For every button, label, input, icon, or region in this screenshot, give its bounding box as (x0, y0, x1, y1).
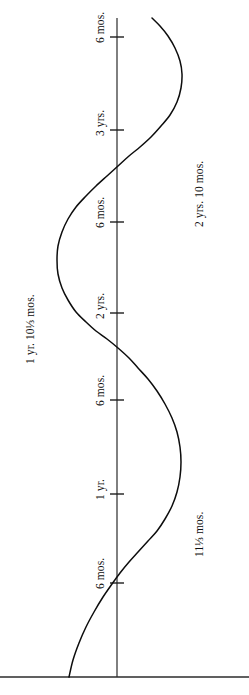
axis-tick-label-4: 6 mos. (94, 197, 106, 228)
extrema-annotation-1: 1 yr. 10⅓ mos. (24, 294, 36, 364)
axis-tick-label-0: 6 mos. (94, 558, 106, 589)
axis-tick-label-1: 1 yr. (94, 479, 106, 500)
axis-tick-label-2: 6 mos. (94, 375, 106, 406)
growth-curve-figure: 6 mos.1 yr.6 mos.2 yrs.6 mos.3 yrs.6 mos… (0, 0, 249, 695)
sinusoidal-growth-curve (57, 18, 182, 677)
axis-tick-label-3: 2 yrs. (94, 293, 106, 319)
axis-tick-label-5: 3 yrs. (94, 110, 106, 136)
axis-tick-label-6: 6 mos. (94, 12, 106, 43)
curve-canvas (0, 0, 249, 695)
extrema-annotation-2: 2 yrs. 10 mos. (193, 161, 205, 227)
axis-group (0, 18, 249, 677)
extrema-annotation-0: 11⅓ mos. (193, 512, 205, 557)
